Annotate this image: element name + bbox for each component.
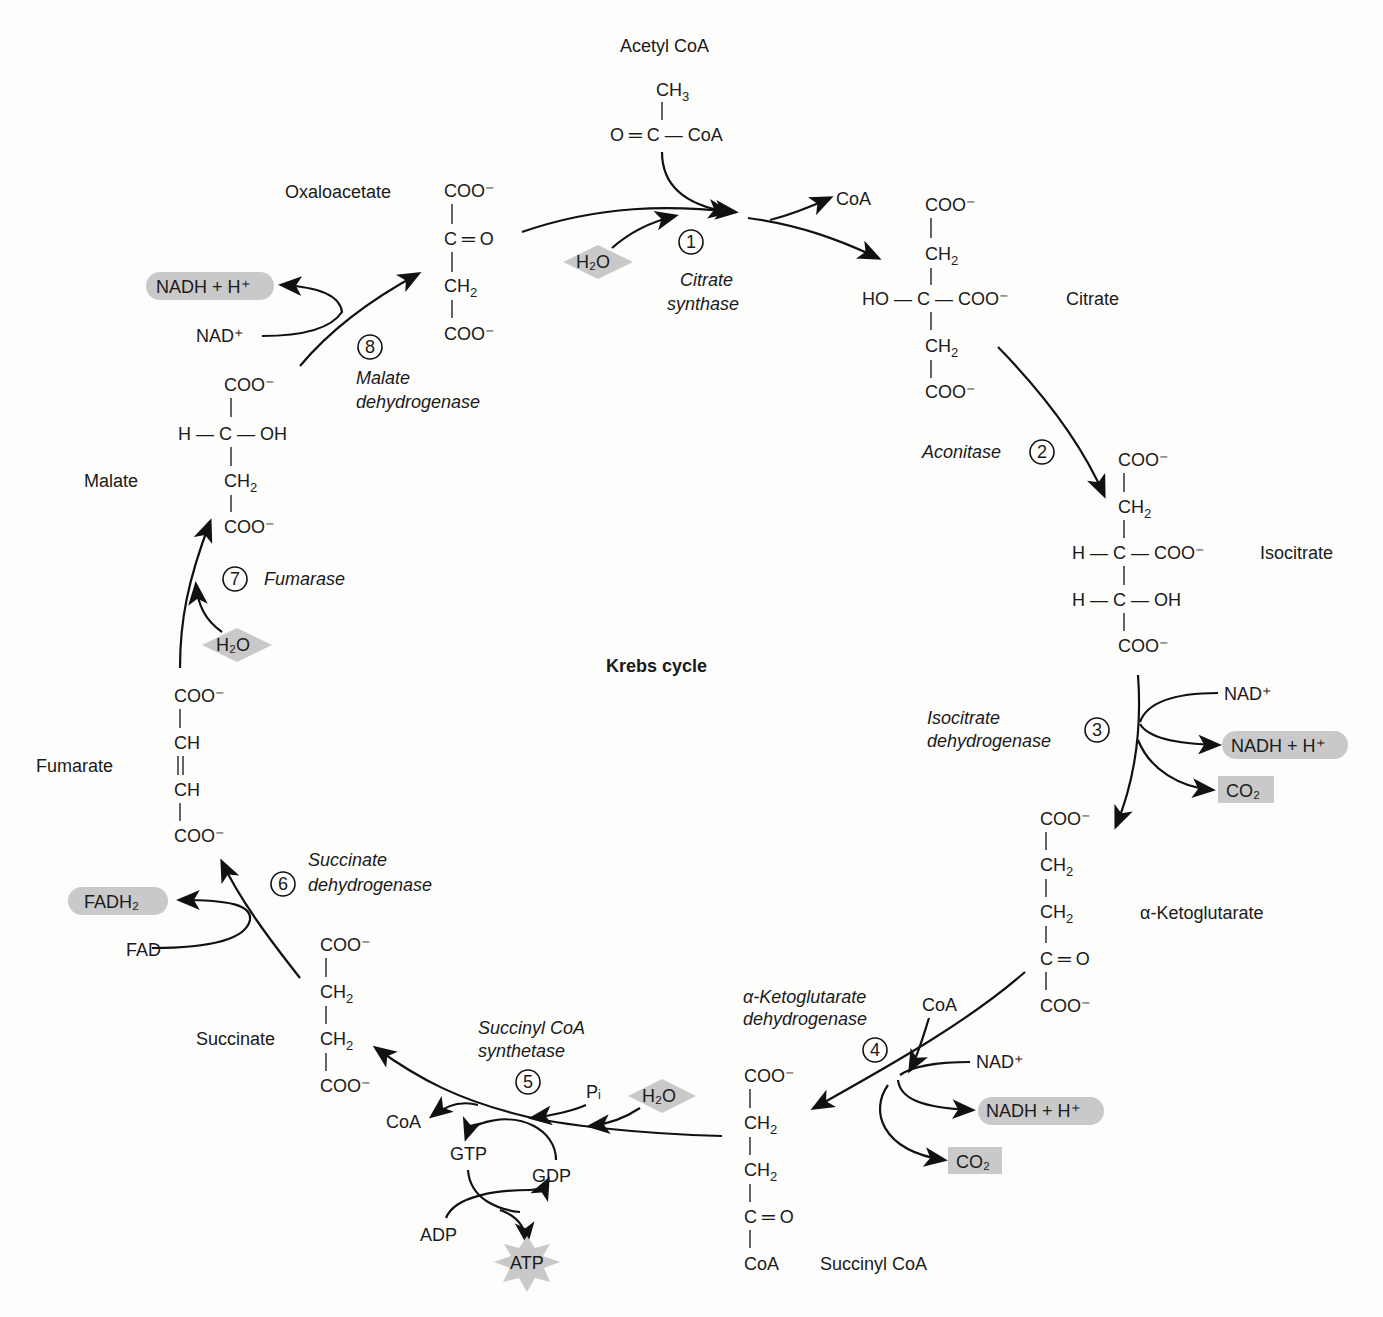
svg-text:CH: CH	[174, 733, 200, 753]
svg-text:synthase: synthase	[667, 294, 739, 314]
svg-text:2: 2	[1037, 442, 1047, 462]
svg-text:CH2: CH2	[744, 1113, 777, 1137]
fumarate-label: Fumarate	[36, 756, 113, 776]
svg-text:COO⁻: COO⁻	[224, 517, 275, 537]
step-7: 7 Fumarase	[223, 567, 345, 591]
oxaloacetate: Oxaloacetate COO⁻ C ═ O CH2 COO⁻	[285, 181, 495, 344]
svg-text:NADH + H⁺: NADH + H⁺	[1231, 736, 1326, 756]
malate: COO⁻ H — C — OH CH2 COO⁻ Malate	[84, 375, 287, 537]
svg-text:COO⁻: COO⁻	[444, 181, 495, 201]
svg-text:H₂O: H₂O	[216, 635, 250, 655]
svg-text:COO⁻: COO⁻	[925, 382, 976, 402]
svg-text:CO₂: CO₂	[956, 1152, 990, 1172]
svg-text:COO⁻: COO⁻	[1118, 636, 1169, 656]
svg-text:COO⁻: COO⁻	[1118, 450, 1169, 470]
enzyme-isocitrate-dehydrogenase: Isocitrate	[927, 708, 1000, 728]
svg-text:CH2: CH2	[1040, 855, 1073, 879]
svg-text:NADH + H⁺: NADH + H⁺	[156, 277, 251, 297]
citrate: COO⁻ CH2 HO — C — COO⁻ CH2 COO⁻ Citrate	[862, 195, 1119, 402]
svg-text:3: 3	[1092, 720, 1102, 740]
cofactors: H₂O CoA NAD⁺ NADH + H⁺ CO₂ CoA NAD⁺ NADH…	[68, 189, 1348, 1292]
svg-text:CO₂: CO₂	[1226, 781, 1260, 801]
step-8: 8 Malate dehydrogenase	[356, 335, 480, 412]
svg-text:CoA: CoA	[922, 995, 957, 1015]
svg-text:6: 6	[278, 874, 288, 894]
step-1: 1 Citrate synthase	[667, 230, 739, 314]
svg-text:H — C — COO⁻: H — C — COO⁻	[1072, 543, 1205, 563]
isocitrate-label: Isocitrate	[1260, 543, 1333, 563]
svg-text:FADH₂: FADH₂	[84, 892, 139, 912]
svg-text:COO⁻: COO⁻	[925, 195, 976, 215]
svg-text:COO⁻: COO⁻	[174, 826, 225, 846]
acetyl-coa-label: Acetyl CoA	[620, 36, 709, 56]
svg-text:H — C — OH: H — C — OH	[178, 424, 287, 444]
svg-text:CH2: CH2	[925, 244, 958, 268]
alpha-ketoglutarate-label: α-Ketoglutarate	[1140, 903, 1263, 923]
succinyl-coa: COO⁻ CH2 CH2 C ═ O CoA Succinyl CoA	[744, 1066, 927, 1274]
svg-text:CH2: CH2	[1118, 497, 1151, 521]
svg-text:C ═ O: C ═ O	[444, 229, 494, 249]
alpha-ketoglutarate: COO⁻ CH2 CH2 C ═ O COO⁻ α-Ketoglutarate	[1040, 809, 1263, 1016]
svg-text:synthetase: synthetase	[478, 1041, 565, 1061]
step-2: Aconitase 2	[921, 440, 1054, 464]
svg-text:COO⁻: COO⁻	[444, 324, 495, 344]
enzyme-fumarase: Fumarase	[264, 569, 345, 589]
svg-text:HO — C — COO⁻: HO — C — COO⁻	[862, 289, 1009, 309]
succinyl-coa-label: Succinyl CoA	[820, 1254, 927, 1274]
svg-text:CH2: CH2	[224, 471, 257, 495]
svg-text:8: 8	[365, 337, 375, 357]
svg-text:O ═ C — CoA: O ═ C — CoA	[610, 125, 723, 145]
citrate-label: Citrate	[1066, 289, 1119, 309]
svg-text:1: 1	[686, 232, 696, 252]
svg-text:dehydrogenase: dehydrogenase	[356, 392, 480, 412]
enzyme-succinate-dehydrogenase: Succinate	[308, 850, 387, 870]
svg-text:H — C — OH: H — C — OH	[1072, 590, 1181, 610]
isocitrate: COO⁻ CH2 H — C — COO⁻ H — C — OH COO⁻ Is…	[1072, 450, 1333, 656]
svg-text:CH2: CH2	[925, 336, 958, 360]
diagram-title: Krebs cycle	[606, 656, 707, 676]
svg-text:CoA: CoA	[386, 1112, 421, 1132]
svg-text:COO⁻: COO⁻	[320, 1076, 371, 1096]
step-5: Succinyl CoA synthetase 5	[478, 1018, 585, 1094]
svg-text:COO⁻: COO⁻	[320, 935, 371, 955]
svg-text:COO⁻: COO⁻	[1040, 809, 1091, 829]
svg-text:GTP: GTP	[450, 1144, 487, 1164]
fumarate: COO⁻ CH CH COO⁻ Fumarate	[36, 686, 225, 846]
svg-text:NADH + H⁺: NADH + H⁺	[986, 1101, 1081, 1121]
svg-text:H₂O: H₂O	[576, 252, 610, 272]
succinate-label: Succinate	[196, 1029, 275, 1049]
svg-text:COO⁻: COO⁻	[174, 686, 225, 706]
svg-text:dehydrogenase: dehydrogenase	[927, 731, 1051, 751]
svg-text:5: 5	[523, 1072, 533, 1092]
svg-text:COO⁻: COO⁻	[1040, 996, 1091, 1016]
svg-text:CH2: CH2	[744, 1160, 777, 1184]
svg-text:COO⁻: COO⁻	[744, 1066, 795, 1086]
svg-text:GDP: GDP	[532, 1166, 571, 1186]
svg-text:C ═ O: C ═ O	[744, 1207, 794, 1227]
svg-text:CH2: CH2	[320, 982, 353, 1006]
enzyme-alpha-ketoglutarate-dehydrogenase: α-Ketoglutarate	[743, 987, 866, 1007]
svg-text:ATP: ATP	[510, 1253, 544, 1273]
enzyme-succinyl-coa-synthetase: Succinyl CoA	[478, 1018, 585, 1038]
svg-text:CH: CH	[174, 780, 200, 800]
acetyl-coa: Acetyl CoA CH3 O ═ C — CoA	[610, 36, 723, 145]
svg-text:ADP: ADP	[420, 1225, 457, 1245]
svg-text:FAD: FAD	[126, 940, 161, 960]
enzyme-citrate-synthase: Citrate	[680, 270, 733, 290]
svg-text:4: 4	[870, 1040, 880, 1060]
cycle-arrows	[152, 152, 1218, 1242]
malate-label: Malate	[84, 471, 138, 491]
svg-text:7: 7	[230, 569, 240, 589]
svg-text:dehydrogenase: dehydrogenase	[308, 875, 432, 895]
svg-text:CoA: CoA	[744, 1254, 779, 1274]
step-6: 6 Succinate dehydrogenase	[271, 850, 432, 896]
svg-text:CH2: CH2	[1040, 902, 1073, 926]
step-4: α-Ketoglutarate dehydrogenase 4	[743, 987, 887, 1062]
svg-text:CH2: CH2	[320, 1029, 353, 1053]
oxaloacetate-label: Oxaloacetate	[285, 182, 391, 202]
svg-text:CoA: CoA	[836, 189, 871, 209]
svg-text:NAD⁺: NAD⁺	[1224, 684, 1272, 704]
svg-text:dehydrogenase: dehydrogenase	[743, 1009, 867, 1029]
svg-text:CH2: CH2	[444, 276, 477, 300]
svg-text:H₂O: H₂O	[642, 1086, 676, 1106]
